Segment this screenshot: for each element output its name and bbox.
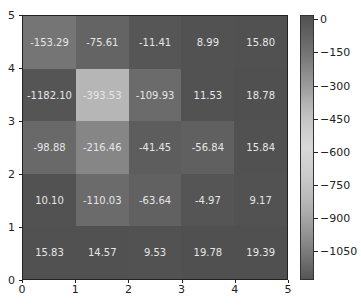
heatmap-cell: 10.10 [23, 174, 76, 227]
heatmap-cell: -1182.10 [23, 69, 76, 122]
colorbar-tick-label: −1050 [320, 244, 357, 257]
colorbar-tick-label: −300 [320, 79, 350, 92]
heatmap-cell: 18.78 [234, 69, 287, 122]
x-tick-label: 5 [285, 283, 292, 296]
colorbar-tick-mark [314, 152, 318, 153]
y-tick-mark [19, 280, 22, 281]
colorbar-tick-mark [314, 19, 318, 20]
colorbar-tick-label: 0 [320, 13, 327, 26]
colorbar-tick-mark [314, 86, 318, 87]
heatmap-cell: 15.83 [23, 226, 76, 279]
colorbar-tick-mark [314, 52, 318, 53]
x-tick-label: 3 [178, 283, 185, 296]
heatmap-cell: 19.78 [181, 226, 234, 279]
heatmap-cell: -56.84 [181, 121, 234, 174]
x-tick-label: 4 [231, 283, 238, 296]
colorbar-tick-label: −450 [320, 112, 350, 125]
colorbar-tick-mark [314, 119, 318, 120]
heatmap-cell: 11.53 [181, 69, 234, 122]
heatmap-cell: -216.46 [76, 121, 129, 174]
y-tick-label: 1 [8, 221, 15, 234]
colorbar [300, 15, 314, 280]
colorbar-tick-label: −150 [320, 46, 350, 59]
heatmap-cell: 9.53 [129, 226, 182, 279]
heatmap-cell: 8.99 [181, 16, 234, 69]
x-tick-label: 0 [19, 283, 26, 296]
x-tick-label: 1 [72, 283, 79, 296]
heatmap-cell: 15.80 [234, 16, 287, 69]
y-tick-mark [19, 121, 22, 122]
colorbar-tick-label: −900 [320, 211, 350, 224]
heatmap-cell: -393.53 [76, 69, 129, 122]
heatmap-cell: -109.93 [129, 69, 182, 122]
heatmap-cell: 14.57 [76, 226, 129, 279]
heatmap-cell: -11.41 [129, 16, 182, 69]
colorbar-tick-label: −600 [320, 145, 350, 158]
colorbar-tick-mark [314, 218, 318, 219]
colorbar-tick-mark [314, 251, 318, 252]
heatmap-plot-area: -153.29-75.61-11.418.9915.80-1182.10-393… [22, 15, 288, 280]
y-tick-mark [19, 174, 22, 175]
heatmap-cell: 19.39 [234, 226, 287, 279]
heatmap-cell: -41.45 [129, 121, 182, 174]
heatmap-cell: -153.29 [23, 16, 76, 69]
heatmap-cell: -75.61 [76, 16, 129, 69]
colorbar-tick-mark [314, 185, 318, 186]
y-tick-label: 0 [8, 274, 15, 287]
y-tick-mark [19, 15, 22, 16]
heatmap-cell: -110.03 [76, 174, 129, 227]
heatmap-cell: -4.97 [181, 174, 234, 227]
y-tick-label: 2 [8, 168, 15, 181]
y-tick-label: 4 [8, 62, 15, 75]
y-tick-label: 5 [8, 9, 15, 22]
y-tick-mark [19, 68, 22, 69]
heatmap-cell: -63.64 [129, 174, 182, 227]
heatmap-cell: -98.88 [23, 121, 76, 174]
heatmap-cell: 9.17 [234, 174, 287, 227]
y-tick-label: 3 [8, 115, 15, 128]
x-tick-label: 2 [125, 283, 132, 296]
heatmap-cell: 15.84 [234, 121, 287, 174]
colorbar-tick-label: −750 [320, 178, 350, 191]
y-tick-mark [19, 227, 22, 228]
